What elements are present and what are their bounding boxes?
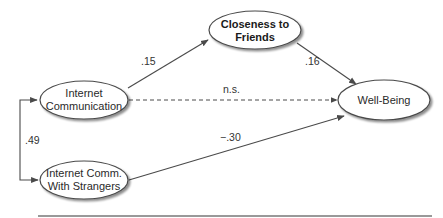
node-label-line-2: Communication: [46, 100, 122, 112]
node-label-line-1: Closeness to: [221, 18, 290, 30]
path-diagram: .15 .16 n.s. −.30 .49 Closeness to Frien…: [0, 0, 443, 218]
node-label-line-1: Well-Being: [358, 94, 411, 106]
edge-label-strangers-to-well-being: −.30: [220, 131, 241, 143]
node-internet-communication: Internet Communication: [40, 81, 128, 119]
edge-internet-comm-to-closeness: [128, 40, 208, 88]
node-internet-comm-with-strangers: Internet Comm. With Strangers: [40, 161, 128, 199]
edge-label-correlation: .49: [25, 134, 40, 146]
node-label-line-1: Internet Comm.: [46, 167, 122, 179]
node-closeness-to-friends: Closeness to Friends: [209, 11, 301, 49]
node-label-line-2: With Strangers: [48, 180, 121, 192]
node-label-line-1: Internet: [65, 87, 102, 99]
node-label-line-2: Friends: [235, 31, 275, 43]
node-well-being: Well-Being: [338, 80, 430, 120]
edge-strangers-to-well-being: [129, 116, 344, 180]
edge-label-internet-comm-to-well-being: n.s.: [223, 83, 240, 95]
edge-label-closeness-to-well-being: .16: [305, 55, 320, 67]
edge-label-internet-comm-to-closeness: .15: [141, 55, 156, 67]
